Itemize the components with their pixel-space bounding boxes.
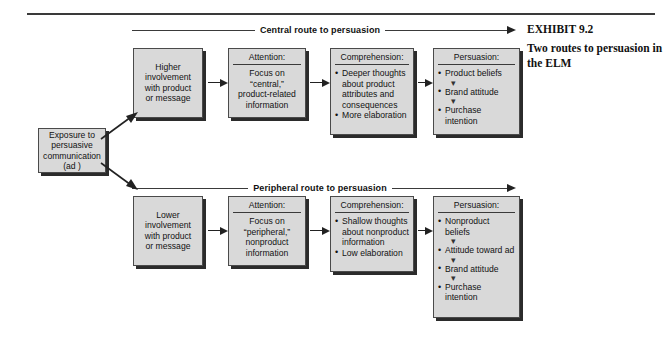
list-item: Attitude toward ad (438, 245, 515, 255)
list-item: Purchase intention (438, 105, 515, 126)
route-line-right (385, 30, 508, 31)
top-divider-rule (27, 13, 655, 15)
list-item: Deeper thoughts about product attributes… (335, 68, 409, 110)
connector-arrow-exposure-to-higher (100, 112, 140, 140)
node-attention-central-text: Focus on “central,” product-related info… (233, 68, 301, 110)
list-item: Purchase intention (438, 282, 515, 303)
arrow-shaft (101, 163, 131, 185)
arrow-shaft (310, 82, 322, 84)
down-arrow-icon: ▾ (438, 237, 515, 245)
node-exposure-text: Exposure to persuasive communication (ad… (43, 130, 101, 171)
arrow-head-icon (220, 227, 228, 235)
down-arrow-icon: ▾ (438, 97, 515, 105)
text-line: “central,” (233, 79, 301, 89)
text-line: Focus on (233, 68, 301, 78)
text-line: with product (145, 231, 191, 241)
down-arrow-icon: ▾ (438, 256, 515, 264)
down-arrow-icon: ▾ (438, 274, 515, 282)
node-comprehension-central: Comprehension: Deeper thoughts about pro… (330, 48, 414, 135)
arrow-head-icon (322, 227, 330, 235)
list-item: Shallow thoughts about nonproduct inform… (335, 216, 409, 247)
arrow-head-icon (126, 112, 138, 123)
node-header: Comprehension: (335, 200, 409, 213)
exhibit-title: Two routes to persuasion in the ELM (527, 41, 667, 71)
node-persuasion-central: Persuasion: Product beliefs ▾ Brand atti… (433, 48, 520, 135)
route-line-left (132, 188, 248, 189)
connector-arrow-lower-to-attention (208, 226, 228, 235)
node-persuasion-peripheral-list: Nonproduct beliefs ▾ Attitude toward ad … (438, 216, 515, 302)
exhibit-number: EXHIBIT 9.2 (527, 22, 667, 37)
arrow-head-icon (425, 79, 433, 87)
route-label-central: Central route to persuasion (132, 23, 516, 37)
node-header: Attention: (233, 200, 301, 213)
route-label-peripheral: Peripheral route to persuasion (132, 181, 516, 195)
arrow-shaft (418, 230, 425, 232)
connector-arrow-exposure-to-lower (100, 162, 140, 190)
arrow-head-icon (322, 79, 330, 87)
node-attention-peripheral: Attention: Focus on “peripheral,” nonpro… (228, 196, 306, 266)
text-line: Exposure to (43, 130, 101, 140)
text-line: Higher (145, 62, 191, 72)
route-line-left (132, 30, 255, 31)
node-lower-involvement-text: Lower involvement with product or messag… (145, 210, 191, 252)
node-attention-central: Attention: Focus on “central,” product-r… (228, 48, 306, 118)
text-line: involvement (145, 220, 191, 230)
list-item: Brand attitude (438, 87, 515, 97)
arrow-head-icon (126, 179, 138, 190)
list-item: More elaboration (335, 110, 409, 120)
text-line: information (233, 248, 301, 258)
connector-arrow-comprehension-to-persuasion (418, 78, 433, 87)
arrow-shaft (208, 82, 220, 84)
text-line: Lower (145, 210, 191, 220)
list-item: Nonproduct beliefs (438, 216, 515, 237)
text-line: nonproduct (233, 237, 301, 247)
text-line: or message (145, 241, 191, 251)
node-attention-peripheral-text: Focus on “peripheral,” nonproduct inform… (233, 216, 301, 258)
route-peripheral-text: Peripheral route to persuasion (248, 183, 392, 193)
node-persuasion-central-list: Product beliefs ▾ Brand attitude ▾ Purch… (438, 68, 515, 126)
node-header: Attention: (233, 52, 301, 65)
node-comprehension-peripheral: Comprehension: Shallow thoughts about no… (330, 196, 414, 272)
route-arrow-icon (507, 26, 516, 34)
exhibit-figure: EXHIBIT 9.2 Two routes to persuasion in … (0, 0, 671, 347)
down-arrow-icon: ▾ (438, 79, 515, 87)
node-header: Persuasion: (438, 200, 515, 213)
list-item: Product beliefs (438, 68, 515, 78)
text-line: information (233, 100, 301, 110)
route-line-right (392, 188, 508, 189)
text-line: Focus on (233, 216, 301, 226)
route-arrow-icon (507, 184, 516, 192)
text-line: persuasive (43, 140, 101, 150)
node-header: Persuasion: (438, 52, 515, 65)
route-central-text: Central route to persuasion (255, 25, 385, 35)
arrow-shaft (418, 82, 425, 84)
node-higher-involvement: Higher involvement with product or messa… (133, 48, 203, 118)
list-item: Low elaboration (335, 248, 409, 258)
node-persuasion-peripheral: Persuasion: Nonproduct beliefs ▾ Attitud… (433, 196, 520, 318)
text-line: product-related (233, 89, 301, 99)
node-comprehension-central-list: Deeper thoughts about product attributes… (335, 68, 409, 120)
list-item: Brand attitude (438, 264, 515, 274)
text-line: or message (145, 93, 191, 103)
text-line: communication (43, 151, 101, 161)
exhibit-caption: EXHIBIT 9.2 Two routes to persuasion in … (527, 22, 667, 71)
arrow-head-icon (425, 227, 433, 235)
connector-arrow-attention-to-comprehension (310, 78, 330, 87)
connector-arrow-higher-to-attention (208, 78, 228, 87)
node-comprehension-peripheral-list: Shallow thoughts about nonproduct inform… (335, 216, 409, 258)
text-line: with product (145, 83, 191, 93)
text-line: (ad ) (43, 161, 101, 171)
node-higher-involvement-text: Higher involvement with product or messa… (145, 62, 191, 104)
node-exposure: Exposure to persuasive communication (ad… (38, 128, 106, 173)
arrow-shaft (310, 230, 322, 232)
text-line: involvement (145, 72, 191, 82)
node-lower-involvement: Lower involvement with product or messag… (133, 196, 203, 266)
arrow-shaft (101, 117, 131, 139)
arrow-head-icon (220, 79, 228, 87)
arrow-shaft (208, 230, 220, 232)
connector-arrow-comprehension-to-persuasion-p (418, 226, 433, 235)
text-line: “peripheral,” (233, 227, 301, 237)
node-header: Comprehension: (335, 52, 409, 65)
connector-arrow-attention-to-comprehension-p (310, 226, 330, 235)
